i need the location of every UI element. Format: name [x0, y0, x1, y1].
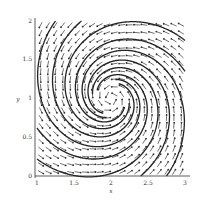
plot-area: 1 1.5 2 2.5 3 0 0.5 1 1.5 2 x y [0, 0, 198, 204]
solution-trajectories [37, 21, 185, 177]
y-tick: 0 [28, 172, 32, 179]
y-tick: 1.5 [22, 55, 32, 62]
y-tick: 1 [28, 94, 32, 101]
phase-portrait-chart: 1 1.5 2 2.5 3 0 0.5 1 1.5 2 x y [0, 0, 198, 204]
x-tick: 1.5 [69, 179, 79, 186]
y-tick: 0.5 [22, 133, 32, 140]
direction-field-arrows [38, 22, 184, 175]
x-tick: 2 [109, 179, 113, 186]
x-axis-label: x [109, 187, 113, 194]
y-tick: 2 [28, 17, 32, 24]
x-tick-labels: 1 1.5 2 2.5 3 [35, 179, 187, 186]
x-tick: 3 [183, 179, 187, 186]
x-tick: 1 [35, 179, 39, 186]
x-tick: 2.5 [143, 179, 153, 186]
y-axis-label: y [15, 95, 20, 103]
y-tick-labels: 0 0.5 1 1.5 2 [22, 17, 32, 179]
